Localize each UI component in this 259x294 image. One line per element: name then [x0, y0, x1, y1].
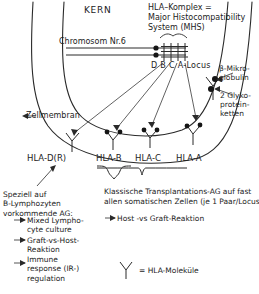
immune-response-regulation-item: Immune response (IR-) regulation — [27, 255, 79, 283]
beta2-microglobulin-label: β-Mikro- globulin — [219, 64, 250, 82]
left-item-arrowheads — [20, 217, 26, 266]
hla-molecule-c-dots — [142, 128, 160, 133]
locus-ticks — [161, 43, 188, 61]
hla-a-label: HLA-A — [176, 154, 202, 164]
right-item-arrowhead — [110, 215, 116, 221]
glycoprotein-chains-label: 2 Glyko- protein- ketten — [220, 91, 251, 118]
left-item-arrows — [14, 220, 25, 263]
hla-b-label: HLA-B — [96, 154, 122, 164]
hla-dr-label: HLA-D(R) — [27, 154, 66, 164]
locus-label: D B C A-Locus — [151, 62, 211, 71]
hla-mhc-diagram: KERN HLA–Komplex = Major Histocompatibil… — [0, 0, 259, 294]
hla-c-label: HLA-C — [135, 154, 161, 164]
b-lymphocyte-note-title: Speziell auf B-Lymphozyten vorkommende A… — [3, 190, 73, 218]
classical-ag-brace — [97, 166, 187, 179]
left-note-arrow — [37, 167, 54, 186]
hla-molecule-b — [108, 133, 119, 150]
nucleus-label: KERN — [84, 5, 111, 15]
graft-vs-host-item: Graft-vs-Host- Reaktion — [27, 236, 79, 255]
legend-label: = HLA-Moleküle — [139, 267, 199, 275]
hla-molecule-c — [145, 131, 156, 148]
mixed-lymphocyte-culture-item: Mixed Lympho- cyte culture — [27, 216, 84, 235]
projection-arrowheads — [71, 115, 199, 136]
hla-molecule-a — [188, 127, 199, 145]
legend-hla-molecule-icon — [120, 262, 132, 279]
locus-projection-lines — [74, 63, 196, 133]
mhc-region-brace — [160, 34, 187, 38]
chromosome-label: Chromosom Nr.6 — [59, 38, 126, 47]
centromere-dots — [153, 45, 158, 57]
host-vs-graft-item: Host -vs Graft-Reaktion — [117, 215, 204, 223]
cell-membrane-label: Zellmembran — [26, 112, 80, 121]
classical-transplantation-ag-title: Klassische Transplantations-AG auf fast … — [104, 187, 259, 207]
mhc-complex-title: HLA–Komplex = Major Histocompatibility S… — [148, 3, 245, 33]
